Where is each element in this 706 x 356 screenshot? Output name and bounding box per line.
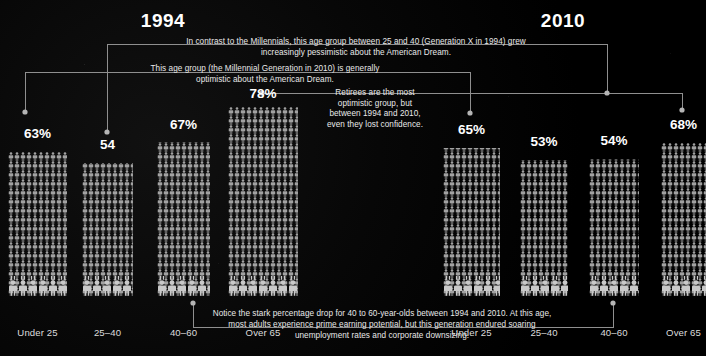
category-label: Under 25 [427,327,516,338]
pictogram-base-row [661,276,706,296]
pictogram-base-row [520,276,568,296]
bar-value-label: 65% [429,122,514,137]
pictogram-base-row [8,276,67,296]
category-label: 40–60 [573,327,655,338]
person-icon-large [443,276,500,296]
bar-value-label: 78% [214,86,312,101]
person-icon-large [157,276,210,296]
pictogram-base-row [82,276,133,296]
bar-value-label: 67% [143,117,224,132]
pictogram-bar [661,143,706,296]
bar-value-label: 54 [68,137,147,152]
category-label: 25–40 [504,327,584,338]
bar-value-label: 53% [506,134,582,149]
person-icon [443,148,500,296]
pictogram-bar [228,107,298,296]
person-icon-large [228,276,298,296]
annotation-retirees: Retirees are the most optimistic group, … [323,88,427,130]
person-icon [661,143,706,296]
category-label: 25–40 [66,327,149,338]
pictogram-base-row [443,276,500,296]
person-icon-large [589,276,639,296]
person-icon-large [520,276,568,296]
pictogram-bar [8,152,67,296]
bar-value-label: 54% [575,133,653,148]
person-icon [228,107,298,296]
pictogram-base-row [157,276,210,296]
pictogram-base-row [589,276,639,296]
annotation-millennial: This age group (the Millennial Generatio… [140,63,390,85]
infographic-canvas: 1994 2010 In contrast to the Millennials… [0,0,706,356]
category-label: Over 65 [212,327,314,338]
pictogram-base-row [228,276,298,296]
person-icon-large [8,276,67,296]
person-icon [8,152,67,296]
annotation-generation-x: In contrast to the Millennials, this age… [186,36,526,58]
pictogram-bar [157,142,210,296]
person-icon-large [661,276,706,296]
person-icon-large [82,276,133,296]
person-icon [157,142,210,296]
bar-value-label: 68% [647,117,706,132]
category-label: Over 65 [645,327,706,338]
pictogram-bar [443,148,500,296]
